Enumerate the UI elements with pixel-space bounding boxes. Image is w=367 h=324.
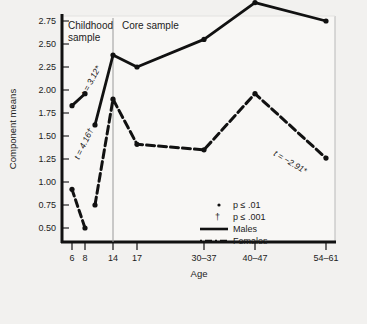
y-tick-label-8: 2.50 bbox=[38, 39, 56, 49]
component-means-line-chart: 0.50 0.75 1.00 1.25 1.50 1.75 2.00 2.25 … bbox=[0, 0, 367, 324]
core-females-point bbox=[252, 91, 257, 96]
x-tick-label-6: 54–61 bbox=[313, 253, 338, 263]
x-tick-label-1: 8 bbox=[82, 253, 87, 263]
x-axis-title: Age bbox=[191, 268, 208, 279]
core-males-point bbox=[252, 0, 257, 5]
x-tick-label-3: 17 bbox=[132, 253, 142, 263]
legend-label-females: Females bbox=[233, 236, 268, 246]
y-axis-title: Component means bbox=[7, 89, 18, 170]
legend-marker-dagger-icon: † bbox=[215, 212, 220, 222]
childhood-males-point bbox=[69, 103, 74, 108]
childhood-females-point bbox=[82, 225, 87, 230]
chart-container: 0.50 0.75 1.00 1.25 1.50 1.75 2.00 2.25 … bbox=[0, 0, 367, 324]
legend-marker-dot-icon bbox=[217, 203, 220, 206]
core-females-point bbox=[110, 97, 115, 102]
childhood-sample-label-line2: sample bbox=[68, 32, 101, 43]
y-tick-label-0: 0.50 bbox=[38, 223, 56, 233]
core-females-point bbox=[134, 142, 139, 147]
legend-label-males: Males bbox=[233, 224, 258, 234]
y-tick-label-2: 1.00 bbox=[38, 177, 56, 187]
core-females-point bbox=[323, 155, 328, 160]
y-tick-label-9: 2.75 bbox=[38, 16, 56, 26]
legend-label-p01: p ≤ .01 bbox=[233, 200, 260, 210]
core-females-point bbox=[201, 147, 206, 152]
childhood-females-point bbox=[69, 187, 74, 192]
core-sample-label: Core sample bbox=[122, 20, 179, 31]
y-tick-label-5: 1.75 bbox=[38, 108, 56, 118]
x-tick-label-4: 30–37 bbox=[191, 253, 216, 263]
y-tick-label-6: 2.00 bbox=[38, 85, 56, 95]
x-tick-label-0: 6 bbox=[69, 253, 74, 263]
core-males-point bbox=[201, 37, 206, 42]
y-tick-label-7: 2.25 bbox=[38, 62, 56, 72]
childhood-sample-label-line1: Childhood bbox=[68, 20, 113, 31]
x-tick-label-2: 14 bbox=[108, 253, 118, 263]
core-males-point bbox=[92, 122, 97, 127]
legend-label-p001: p ≤ .001 bbox=[233, 212, 265, 222]
core-males-point bbox=[110, 52, 115, 57]
core-females-point bbox=[92, 202, 97, 207]
y-tick-label-4: 1.50 bbox=[38, 131, 56, 141]
core-males-point bbox=[323, 18, 328, 23]
y-tick-label-1: 0.75 bbox=[38, 200, 56, 210]
core-males-point bbox=[134, 64, 139, 69]
y-tick-label-3: 1.25 bbox=[38, 154, 56, 164]
x-tick-label-5: 40–47 bbox=[242, 253, 267, 263]
